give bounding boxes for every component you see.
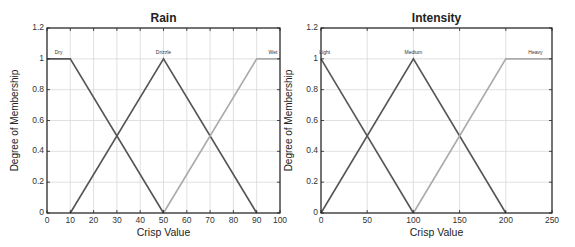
y-tick-label: 0.6 bbox=[291, 115, 318, 125]
plot-area bbox=[0, 0, 575, 247]
x-tick-label: 200 bbox=[494, 215, 518, 225]
y-tick-label: 0 bbox=[291, 207, 318, 217]
y-tick-label: 1.2 bbox=[291, 22, 318, 32]
x-tick-label: 100 bbox=[401, 215, 425, 225]
y-tick-label: 0.2 bbox=[291, 176, 318, 186]
y-tick-label: 0.4 bbox=[291, 145, 318, 155]
intensity-chart: Intensity Degree of Membership Crisp Val… bbox=[0, 0, 575, 247]
membership-label-light: Light bbox=[310, 49, 340, 55]
x-tick-label: 50 bbox=[355, 215, 379, 225]
x-tick-label: 250 bbox=[540, 215, 564, 225]
membership-label-medium: Medium bbox=[398, 49, 428, 55]
y-tick-label: 0.8 bbox=[291, 84, 318, 94]
x-tick-label: 150 bbox=[448, 215, 472, 225]
membership-label-heavy: Heavy bbox=[520, 49, 550, 55]
